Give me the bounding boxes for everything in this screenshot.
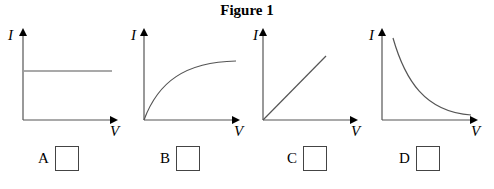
answer-checkbox-b[interactable] bbox=[176, 146, 200, 171]
graphs-panel: I V I V I V I V bbox=[0, 0, 494, 140]
graph-c: I V bbox=[252, 27, 362, 139]
option-label: B bbox=[160, 150, 170, 167]
option-a: A bbox=[38, 146, 79, 171]
option-label: D bbox=[399, 150, 410, 167]
graph-d-curve bbox=[393, 38, 471, 115]
answer-checkbox-a[interactable] bbox=[55, 146, 79, 171]
x-axis-label: V bbox=[234, 123, 245, 139]
y-axis-label: I bbox=[7, 27, 14, 43]
y-axis-label: I bbox=[130, 27, 137, 43]
y-axis-label: I bbox=[368, 27, 375, 43]
graph-c-curve bbox=[263, 56, 326, 120]
graph-a: I V bbox=[7, 27, 121, 139]
option-label: A bbox=[38, 150, 49, 167]
answer-checkbox-d[interactable] bbox=[416, 146, 440, 171]
graph-b-curve bbox=[144, 61, 236, 120]
x-axis-label: V bbox=[471, 123, 482, 139]
graph-d: I V bbox=[368, 27, 482, 139]
option-c: C bbox=[287, 146, 327, 171]
option-d: D bbox=[399, 146, 440, 171]
x-axis-label: V bbox=[351, 123, 362, 139]
option-label: C bbox=[287, 150, 297, 167]
y-axis-label: I bbox=[252, 27, 259, 43]
option-b: B bbox=[160, 146, 200, 171]
graph-b: I V bbox=[130, 27, 245, 139]
answer-checkbox-c[interactable] bbox=[303, 146, 327, 171]
x-axis-label: V bbox=[110, 123, 121, 139]
